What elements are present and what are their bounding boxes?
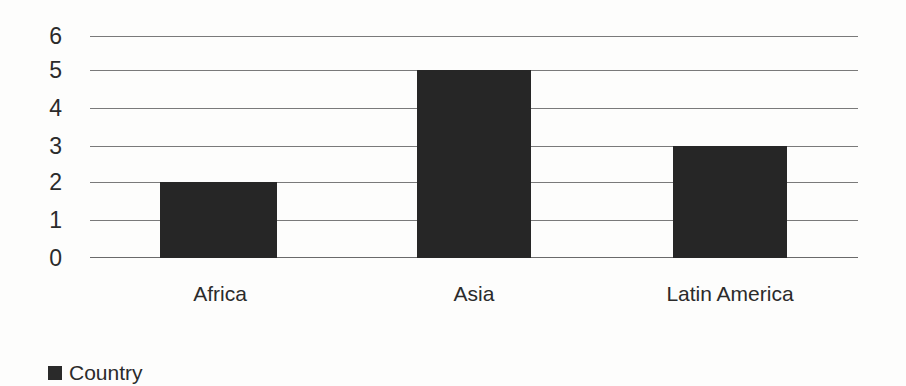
bar-africa[interactable] bbox=[160, 182, 277, 258]
legend-swatch-icon bbox=[48, 366, 62, 380]
x-axis-label-latin-america: Latin America bbox=[640, 281, 820, 307]
x-axis-labels: Africa Asia Latin America bbox=[90, 281, 858, 315]
y-axis-tick-4: 4 bbox=[22, 97, 62, 120]
bar-latin-america[interactable] bbox=[673, 146, 787, 258]
y-axis-tick-6: 6 bbox=[22, 25, 62, 48]
y-axis-tick-1: 1 bbox=[22, 209, 62, 232]
y-axis-tick-0: 0 bbox=[22, 247, 62, 270]
x-axis-label-asia: Asia bbox=[384, 281, 564, 307]
legend-label-country: Country bbox=[69, 362, 143, 383]
x-axis-label-africa: Africa bbox=[130, 281, 310, 307]
legend: Country bbox=[48, 362, 143, 383]
bar-chart: 6 5 4 3 2 1 0 Africa Asia Latin America bbox=[0, 0, 906, 386]
plot-area bbox=[90, 36, 858, 258]
y-axis-labels: 6 5 4 3 2 1 0 bbox=[0, 0, 90, 300]
y-axis-tick-5: 5 bbox=[22, 59, 62, 82]
bar-asia[interactable] bbox=[417, 70, 531, 258]
bars-layer bbox=[90, 36, 858, 258]
y-axis-tick-2: 2 bbox=[22, 171, 62, 194]
y-axis-tick-3: 3 bbox=[22, 135, 62, 158]
